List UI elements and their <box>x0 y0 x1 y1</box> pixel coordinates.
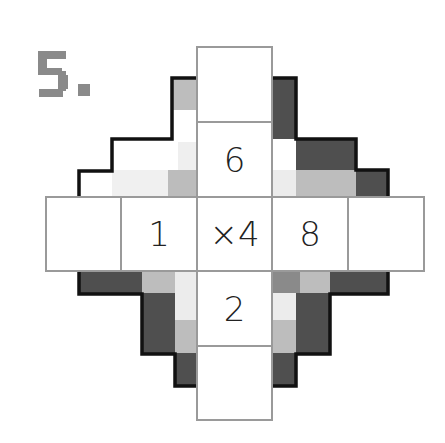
lower-left-pixels <box>79 272 196 385</box>
vertical-cell-top[interactable] <box>196 46 273 123</box>
horizontal-cell-left[interactable]: 1 <box>120 196 198 272</box>
vertical-cell-upper[interactable]: 6 <box>196 121 273 198</box>
upper-right-pixels <box>272 78 388 196</box>
horizontal-cell-right[interactable]: 8 <box>271 196 349 272</box>
vertical-cell-bottom[interactable] <box>196 345 273 421</box>
upper-left-pixels <box>112 78 196 196</box>
center-operator-cell: ×4 <box>196 196 273 272</box>
vertical-cell-lower[interactable]: 2 <box>196 270 273 347</box>
horizontal-cell-far-right[interactable] <box>347 196 425 272</box>
horizontal-cell-far-left[interactable] <box>45 196 122 272</box>
